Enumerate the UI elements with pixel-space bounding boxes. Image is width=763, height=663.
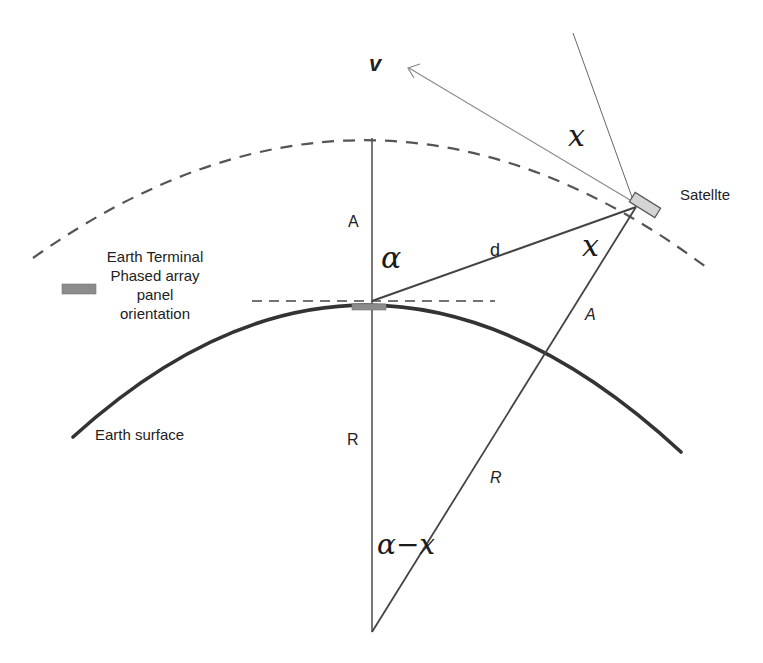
angle-alpha-label: α bbox=[381, 240, 401, 275]
angle-alpha-minus-x-label: α−x bbox=[377, 528, 435, 561]
radial-extension-line bbox=[573, 33, 633, 200]
radius-vertical-label: R bbox=[347, 431, 359, 448]
legend-line-3: panel bbox=[100, 285, 210, 304]
slant-radius-line bbox=[372, 207, 636, 632]
distance-label: d bbox=[490, 240, 500, 260]
legend-line-2: Phased array bbox=[100, 266, 210, 285]
velocity-label: v bbox=[369, 51, 383, 76]
earth-terminal-legend: Earth Terminal Phased array panel orient… bbox=[100, 247, 210, 323]
velocity-vector bbox=[409, 68, 630, 200]
altitude-vertical-label: A bbox=[348, 213, 359, 230]
angle-x-satellite-label: x bbox=[582, 228, 599, 263]
legend-line-4: orientation bbox=[100, 304, 210, 323]
radius-slant-label: R bbox=[490, 469, 502, 486]
terminal-panel-icon bbox=[352, 304, 386, 310]
altitude-slant-label: A bbox=[584, 306, 596, 323]
legend-line-1: Earth Terminal bbox=[100, 247, 210, 266]
satellite-label: Satellte bbox=[680, 186, 730, 203]
earth-surface-label: Earth surface bbox=[95, 426, 184, 443]
orbital-geometry-diagram: v Satellte Earth surface A d R A R α x x… bbox=[0, 0, 763, 663]
legend-panel-swatch-icon bbox=[62, 284, 96, 294]
satellite-icon bbox=[629, 192, 660, 217]
angle-x-top-label: x bbox=[568, 118, 585, 153]
